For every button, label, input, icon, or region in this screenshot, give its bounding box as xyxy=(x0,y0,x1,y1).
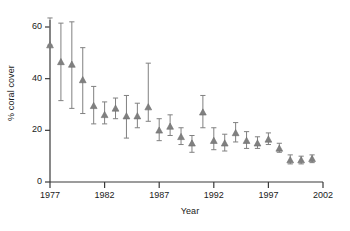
marker-triangle-up-icon xyxy=(265,136,272,142)
data-point xyxy=(221,134,228,151)
data-point xyxy=(265,133,272,145)
y-tick-label: 20 xyxy=(0,124,42,134)
marker-triangle-up-icon xyxy=(276,145,283,151)
marker-triangle-up-icon xyxy=(145,104,152,110)
marker-triangle-up-icon xyxy=(167,123,174,129)
data-point xyxy=(298,156,305,164)
y-axis-label: % coral cover xyxy=(6,58,16,128)
marker-triangle-up-icon xyxy=(232,130,239,136)
x-tick-label: 1982 xyxy=(85,190,125,200)
x-tick-label: 1977 xyxy=(30,190,70,200)
data-point xyxy=(68,22,75,109)
data-point xyxy=(232,123,239,142)
data-point xyxy=(134,103,141,128)
data-point xyxy=(47,18,54,48)
marker-triangle-up-icon xyxy=(287,157,294,163)
marker-triangle-up-icon xyxy=(134,113,141,119)
data-point xyxy=(287,155,294,164)
x-tick-label: 1997 xyxy=(248,190,288,200)
data-point xyxy=(167,115,174,136)
y-tick-label: 40 xyxy=(0,73,42,83)
marker-triangle-up-icon xyxy=(309,155,316,161)
data-point xyxy=(309,155,316,163)
marker-triangle-up-icon xyxy=(58,58,65,64)
data-point xyxy=(90,86,97,123)
data-point xyxy=(210,128,217,150)
marker-triangle-up-icon xyxy=(243,137,250,143)
data-point xyxy=(101,102,108,124)
marker-triangle-up-icon xyxy=(298,157,305,163)
data-point xyxy=(123,95,130,138)
data-point xyxy=(254,137,261,149)
y-tick-label: 0 xyxy=(0,176,42,186)
y-tick-label: 60 xyxy=(0,21,42,31)
chart-figure: % coral cover Year 0204060 1977198219871… xyxy=(0,0,350,231)
marker-triangle-up-icon xyxy=(123,113,130,119)
marker-triangle-up-icon xyxy=(112,105,119,111)
data-point xyxy=(178,128,185,145)
x-tick-label: 1992 xyxy=(194,190,234,200)
data-point xyxy=(79,48,86,114)
data-point xyxy=(276,143,283,152)
marker-triangle-up-icon xyxy=(156,127,163,133)
data-point xyxy=(199,95,206,127)
axis-lines xyxy=(50,20,323,182)
x-axis-ticks xyxy=(50,182,323,188)
data-point xyxy=(145,63,152,121)
data-point xyxy=(156,119,163,141)
marker-triangle-up-icon xyxy=(210,137,217,143)
marker-triangle-up-icon xyxy=(101,111,108,117)
data-point xyxy=(112,98,119,119)
data-point xyxy=(189,136,196,153)
marker-triangle-up-icon xyxy=(178,133,185,139)
data-point xyxy=(243,132,250,149)
marker-triangle-up-icon xyxy=(79,77,86,83)
x-tick-label: 1987 xyxy=(139,190,179,200)
marker-triangle-up-icon xyxy=(68,61,75,67)
marker-triangle-up-icon xyxy=(221,140,228,146)
marker-triangle-up-icon xyxy=(90,102,97,108)
x-axis-label: Year xyxy=(150,206,230,216)
data-series xyxy=(47,18,316,164)
data-point xyxy=(58,23,65,101)
marker-triangle-up-icon xyxy=(254,140,261,146)
marker-triangle-up-icon xyxy=(199,109,206,115)
x-tick-label: 2002 xyxy=(303,190,343,200)
marker-triangle-up-icon xyxy=(189,140,196,146)
y-axis-ticks xyxy=(45,27,50,182)
